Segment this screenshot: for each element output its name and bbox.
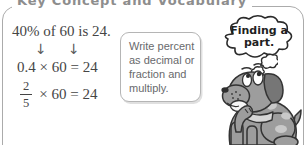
down-arrow-icon: ↓ bbox=[68, 41, 80, 57]
fraction-numerator: 2 bbox=[20, 80, 32, 94]
equation-statement: 40% of 60 is 24. bbox=[12, 23, 111, 40]
fraction-equation-rest: × 60 = 24 bbox=[39, 86, 97, 103]
thought-bubble-text: Finding a part. bbox=[219, 25, 299, 49]
fraction: 2 5 bbox=[20, 80, 32, 109]
down-arrow-icon: ↓ bbox=[35, 41, 47, 57]
equation-fraction: 2 5 × 60 = 24 bbox=[20, 80, 97, 109]
fraction-denominator: 5 bbox=[20, 94, 32, 109]
worksheet-panel: Key Concept and Vocabulary 40% of 60 is … bbox=[0, 0, 306, 145]
callout-line: as decimal or bbox=[129, 53, 196, 67]
dog-illustration bbox=[202, 56, 306, 145]
callout-box: Write percent as decimal or fraction and… bbox=[120, 32, 201, 102]
callout-line: Write percent bbox=[129, 39, 196, 53]
equation-decimal: 0.4 × 60 = 24 bbox=[17, 59, 98, 76]
callout-line: fraction and bbox=[129, 67, 196, 81]
callout-line: multiply. bbox=[129, 81, 196, 95]
page-title: Key Concept and Vocabulary bbox=[12, 0, 252, 8]
